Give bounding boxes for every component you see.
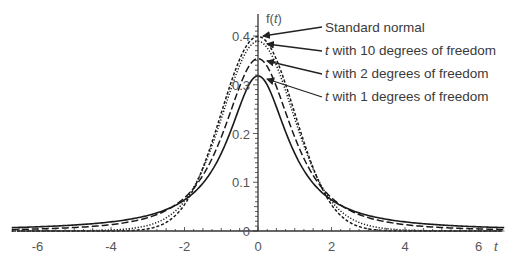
y-tick-label: 0.1 [232, 175, 250, 190]
arrow-t2 [267, 61, 322, 74]
arrow-standard-normal [263, 27, 322, 36]
y-tick-label: 0 [243, 224, 250, 239]
chart-canvas: -6-4-20246 00.10.20.30.4 t f(t) Standard… [0, 0, 514, 268]
arrow-t10 [267, 44, 322, 51]
legend-label-t2: t with 2 degrees of freedom [325, 66, 489, 81]
x-tick-label: 0 [254, 239, 261, 254]
legend-label-standard-normal: Standard normal [325, 20, 425, 35]
x-tick-label: 2 [328, 239, 335, 254]
x-tick-label: 4 [401, 239, 408, 254]
y-tick-label: 0.3 [232, 78, 250, 93]
x-tick-label: -2 [179, 239, 191, 254]
legend-label-t10: t with 10 degrees of freedom [325, 43, 496, 58]
x-tick-label: -4 [105, 239, 117, 254]
arrow-t1 [267, 79, 322, 97]
y-tick-label: 0.2 [232, 127, 250, 142]
y-axis-label: f(t) [266, 11, 282, 26]
legend-annotations: Standard normal t with 10 degrees of fre… [263, 20, 496, 104]
legend-label-t1: t with 1 degrees of freedom [325, 89, 489, 104]
y-ticks: 00.10.20.30.4 [232, 26, 258, 239]
y-tick-label: 0.4 [232, 29, 250, 44]
x-tick-label: 6 [475, 239, 482, 254]
x-axis-label: t [494, 239, 499, 254]
x-tick-label: -6 [32, 239, 44, 254]
